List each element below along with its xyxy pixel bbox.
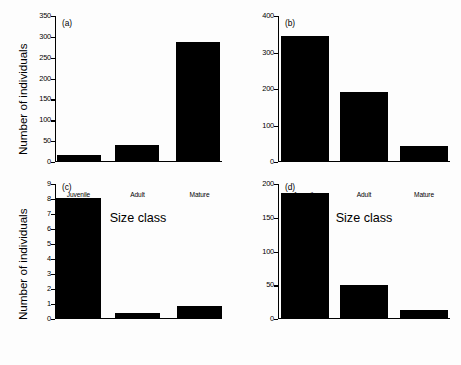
y-tick-label: 3: [21, 270, 51, 277]
panel-c-x-title: Size class: [110, 211, 167, 225]
panel-a: (a) 050100150200250300350: [55, 16, 222, 162]
y-tick-label: 8: [21, 195, 51, 202]
bar: [115, 145, 159, 162]
y-tick-label: 150: [21, 96, 51, 103]
x-category-label: Adult: [130, 191, 145, 198]
y-tick-label: 150: [244, 214, 274, 221]
y-tick-label: 7: [21, 210, 51, 217]
panel-b-bars: [278, 16, 450, 162]
bar: [400, 146, 448, 162]
x-category-label: Mature: [414, 191, 434, 198]
x-category-label: Juvenile: [293, 191, 316, 198]
bar: [281, 36, 329, 162]
y-tick-label: 0: [21, 315, 51, 322]
y-tick-label: 100: [21, 117, 51, 124]
y-tick-label: 50: [244, 282, 274, 289]
y-tick-label: 300: [21, 33, 51, 40]
y-tick-label: 5: [21, 240, 51, 247]
y-tick: [274, 319, 278, 320]
y-tick-label: 6: [21, 225, 51, 232]
bar: [57, 155, 101, 163]
y-tick-label: 100: [244, 122, 274, 129]
y-tick-label: 4: [21, 255, 51, 262]
panel-b: (b) 0100200300400: [278, 16, 450, 162]
bar: [56, 198, 101, 320]
x-category-label: Adult: [357, 191, 372, 198]
y-tick-label: 0: [244, 315, 274, 322]
y-tick-label: 200: [244, 180, 274, 187]
y-tick-label: 300: [244, 49, 274, 56]
bar: [115, 313, 160, 319]
bar: [400, 310, 448, 319]
x-category-label: Juvenile: [67, 191, 90, 198]
y-tick-label: 50: [21, 137, 51, 144]
y-tick-label: 0: [21, 158, 51, 165]
panel-c-bars: [55, 184, 222, 319]
y-tick-label: 1: [21, 300, 51, 307]
y-tick: [51, 319, 55, 320]
panel-c: (c) 0123456789 JuvenileAdultMature Size …: [55, 184, 222, 319]
y-tick-label: 400: [244, 12, 274, 19]
y-tick-label: 100: [244, 248, 274, 255]
x-category-label: Mature: [190, 191, 210, 198]
y-tick-label: 9: [21, 180, 51, 187]
y-tick-label: 0: [244, 158, 274, 165]
bar: [340, 285, 388, 319]
y-tick-label: 2: [21, 285, 51, 292]
bar: [176, 42, 220, 162]
panel-d: (d) 050100150200 JuvenileAdultMature Siz…: [278, 184, 450, 319]
y-tick-label: 250: [21, 54, 51, 61]
panel-d-x-title: Size class: [336, 211, 393, 225]
bar: [281, 193, 329, 319]
y-tick-label: 350: [21, 12, 51, 19]
panel-a-bars: [55, 16, 222, 162]
bar: [177, 306, 222, 319]
y-tick: [274, 162, 278, 163]
y-tick-label: 200: [244, 85, 274, 92]
y-tick-label: 200: [21, 75, 51, 82]
figure-canvas: Number of individuals Number of individu…: [0, 0, 461, 365]
panel-d-bars: [278, 184, 450, 319]
y-tick: [51, 162, 55, 163]
bar: [340, 92, 388, 162]
